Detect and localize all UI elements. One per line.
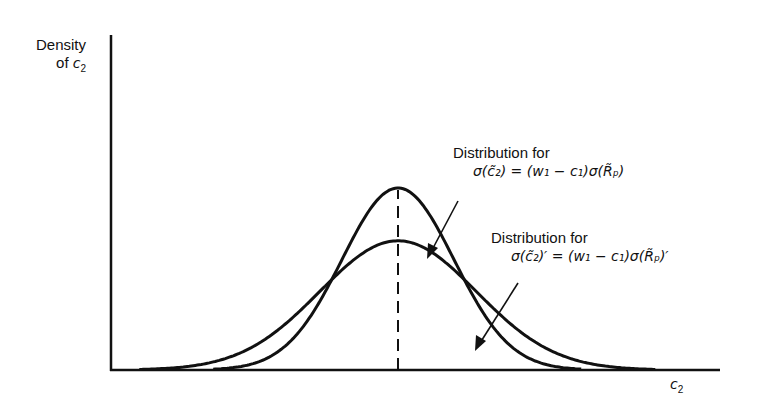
annotation-wide-equation: σ(c̃₂)′ = (w₁ − c₁)σ(R̃ₚ)′ (511, 247, 669, 265)
annotation-wide-title: Distribution for (491, 229, 669, 247)
annotation-narrow-title: Distribution for (453, 144, 624, 162)
annotation-wide: Distribution for σ(c̃₂)′ = (w₁ − c₁)σ(R̃… (491, 229, 669, 265)
arrow-wide (475, 283, 518, 351)
y-axis-label-line1: Density (36, 36, 86, 54)
y-axis-label: Density of c2 (36, 36, 86, 78)
arrow-narrow (427, 201, 458, 259)
y-axis-label-line2: of c2 (36, 54, 86, 78)
annotation-narrow: Distribution for σ(c̃₂) = (w₁ − c₁)σ(R̃ₚ… (453, 144, 624, 180)
x-axis-label: c2 (670, 375, 683, 399)
annotation-narrow-equation: σ(c̃₂) = (w₁ − c₁)σ(R̃ₚ) (473, 162, 624, 180)
chart-canvas (0, 0, 763, 412)
